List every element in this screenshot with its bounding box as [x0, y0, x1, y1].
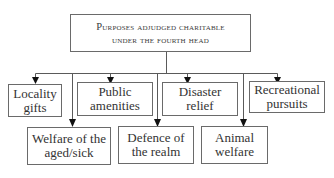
node-label: pursuits — [254, 97, 320, 111]
node-label: Public — [90, 85, 140, 99]
node-label: Welfare of the — [32, 132, 106, 146]
node-label: gifts — [13, 101, 56, 115]
node-label: aged/sick — [32, 146, 106, 160]
node-label: amenities — [90, 99, 140, 113]
node-defence-of-the-realm: Defence of the realm — [118, 126, 194, 164]
node-label: Defence of — [127, 131, 184, 145]
node-label: Recreational — [254, 83, 320, 97]
arrow-icon — [69, 119, 76, 127]
node-recreational-pursuits: Recreational pursuits — [249, 81, 325, 113]
node-public-amenities: Public amenities — [77, 82, 153, 116]
root-title-line1: Purposes adjudged charitable — [96, 20, 225, 33]
node-welfare-aged-sick: Welfare of the aged/sick — [27, 127, 111, 165]
node-disaster-relief: Disaster relief — [162, 82, 238, 116]
node-animal-welfare: Animal welfare — [201, 126, 268, 164]
root-node: Purposes adjudged charitable under the f… — [70, 14, 251, 52]
node-label: relief — [179, 99, 222, 113]
node-label: Disaster — [179, 85, 222, 99]
arrow-icon — [32, 77, 39, 84]
node-label: welfare — [215, 145, 254, 159]
node-label: Animal — [215, 131, 254, 145]
node-locality-gifts: Locality gifts — [8, 84, 62, 117]
node-label: the realm — [127, 145, 184, 159]
root-title-line2: under the fourth head — [96, 33, 225, 46]
node-label: Locality — [13, 87, 56, 101]
